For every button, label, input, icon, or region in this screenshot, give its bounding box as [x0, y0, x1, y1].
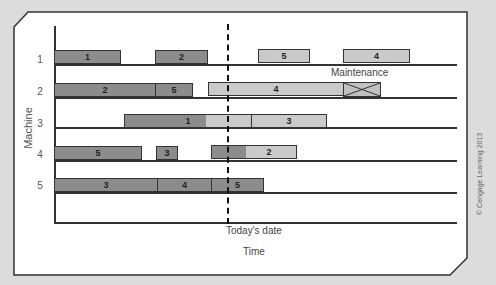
today-marker-line [227, 24, 229, 224]
task-bar-m5-job5: 5 [211, 178, 264, 192]
x-axis-label: Time [243, 246, 265, 257]
task-bar-m5-job4: 4 [157, 178, 212, 192]
maintenance-label: Maintenance [331, 67, 388, 78]
today-label: Today's date [226, 225, 282, 236]
y-axis-label: Machine [22, 103, 34, 153]
row-label-3: 3 [34, 118, 46, 129]
chart-frame [0, 0, 496, 285]
row-label-1: 1 [34, 54, 46, 65]
task-bar-m1-job1: 1 [54, 50, 121, 64]
task-bar-m4-job3: 3 [156, 146, 178, 160]
task-label: 2 [266, 147, 271, 157]
task-bar-m1-job4: 4 [343, 49, 410, 63]
row-label-4: 4 [34, 149, 46, 160]
row-baseline-2 [54, 97, 457, 99]
task-bar-m1-job2: 2 [155, 50, 208, 64]
task-bar-m5-job3: 3 [54, 178, 158, 192]
task-bar-m2-job5: 5 [155, 83, 193, 97]
task-bar-m4-job2: 2 [211, 145, 297, 159]
task-bar-m2-job2: 2 [54, 83, 156, 97]
task-bar-m3-job1: 1 [124, 114, 252, 128]
row-baseline-5 [54, 192, 457, 194]
task-bar-m3-job3: 3 [251, 114, 327, 128]
row-label-2: 2 [34, 86, 46, 97]
task-bar-m1-job5: 5 [258, 49, 310, 63]
maintenance-block [343, 82, 381, 97]
row-baseline-1 [54, 64, 457, 66]
row-label-5: 5 [34, 180, 46, 191]
copyright-credit: © Cengage Learning 2013 [476, 133, 483, 215]
x-axis-line [54, 222, 457, 224]
row-baseline-4 [54, 160, 457, 162]
cross-icon [344, 83, 380, 96]
task-bar-m4-job5: 5 [54, 146, 142, 160]
